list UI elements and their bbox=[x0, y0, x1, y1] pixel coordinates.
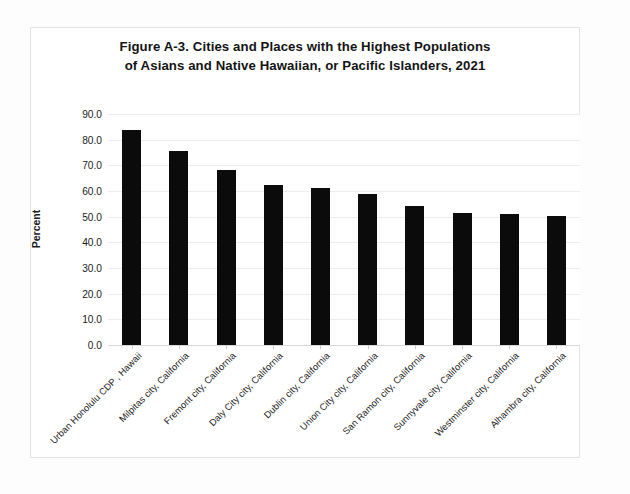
bar bbox=[500, 214, 519, 345]
x-axis-tick-label: Union City city, California bbox=[297, 350, 379, 432]
chart-title-line-2: of Asians and Native Hawaiian, or Pacifi… bbox=[30, 57, 580, 76]
y-axis-tick-label: 0.0 bbox=[88, 340, 102, 351]
x-axis-tick bbox=[556, 345, 557, 349]
bar bbox=[358, 194, 377, 345]
x-axis-tick bbox=[273, 345, 274, 349]
x-axis-tick-labels: Urban Honolulu CDP , HawaiiMilpitas city… bbox=[108, 350, 580, 455]
y-axis-tick-label: 60.0 bbox=[82, 186, 102, 197]
scanned-page: Figure A-3. Cities and Places with the H… bbox=[0, 0, 630, 494]
y-axis-tick-label: 50.0 bbox=[82, 211, 102, 222]
x-axis-tick bbox=[179, 345, 180, 349]
y-axis-tick-label: 40.0 bbox=[82, 237, 102, 248]
y-axis-tick-label: 30.0 bbox=[82, 263, 102, 274]
x-axis-tick bbox=[132, 345, 133, 349]
x-axis-tick-label: Sunnyvale city, California bbox=[391, 350, 474, 433]
chart-title: Figure A-3. Cities and Places with the H… bbox=[30, 38, 580, 75]
bar bbox=[311, 188, 330, 345]
bar bbox=[547, 216, 566, 345]
bar bbox=[405, 206, 424, 345]
x-axis-tick bbox=[226, 345, 227, 349]
y-axis-title: Percent bbox=[30, 210, 42, 249]
chart-title-line-1: Figure A-3. Cities and Places with the H… bbox=[30, 38, 580, 57]
y-axis-tick-labels: 90.080.070.060.050.040.030.020.010.00.0 bbox=[60, 114, 102, 345]
bar-series bbox=[108, 114, 580, 345]
x-axis-tick bbox=[415, 345, 416, 349]
y-axis-tick-label: 90.0 bbox=[82, 109, 102, 120]
bar bbox=[264, 185, 283, 345]
x-axis-tick bbox=[509, 345, 510, 349]
bar bbox=[122, 130, 141, 345]
y-axis-tick-label: 20.0 bbox=[82, 288, 102, 299]
y-axis-tick-label: 10.0 bbox=[82, 314, 102, 325]
y-axis-tick-label: 70.0 bbox=[82, 160, 102, 171]
y-axis-tick-label: 80.0 bbox=[82, 134, 102, 145]
bar bbox=[169, 151, 188, 345]
plot-area bbox=[108, 114, 580, 345]
x-axis-tick bbox=[462, 345, 463, 349]
x-axis-tick-label: Westminster city, California bbox=[433, 350, 521, 438]
x-axis-tick bbox=[368, 345, 369, 349]
x-axis-tick bbox=[320, 345, 321, 349]
bar bbox=[453, 213, 472, 345]
bar bbox=[217, 170, 236, 345]
x-axis-tick-label: San Ramon city, California bbox=[340, 350, 427, 437]
